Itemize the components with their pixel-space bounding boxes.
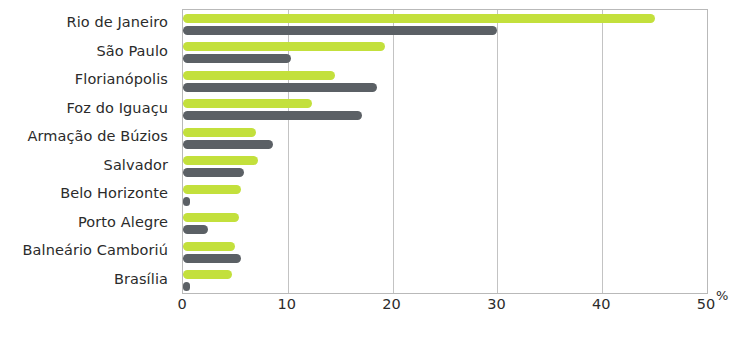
bar-series-green [183,99,312,108]
bar-series-gray [183,282,190,291]
bar-series-gray [183,111,362,120]
category-label: Belo Horizonte [0,185,168,201]
bar-series-gray [183,26,497,35]
x-axis-unit-label: % [716,288,728,303]
plot-area [182,9,708,294]
x-tick-label: 20 [382,296,400,312]
bar-series-green [183,185,241,194]
bar-series-gray [183,140,273,149]
x-axis-tick-labels: 01020304050 [182,296,708,318]
bar-series-green [183,71,335,80]
bar-series-green [183,128,256,137]
category-label: Rio de Janeiro [0,14,168,30]
category-label: Porto Alegre [0,214,168,230]
bar-series-green [183,213,239,222]
bar-series-green [183,42,385,51]
category-label: Balneário Camboriú [0,242,168,258]
category-label: Foz do Iguaçu [0,100,168,116]
x-tick-label: 30 [487,296,505,312]
bar-series-gray [183,225,208,234]
bar-series-gray [183,254,241,263]
bar-series-gray [183,54,291,63]
category-axis-labels: Rio de JaneiroSão PauloFlorianópolisFoz … [0,9,176,294]
x-tick-label: 50 [697,296,715,312]
category-label: Salvador [0,157,168,173]
bar-series-green [183,242,235,251]
bars-layer [183,10,707,293]
bar-series-gray [183,83,377,92]
bar-series-gray [183,197,190,206]
bar-series-gray [183,168,244,177]
category-label: Brasília [0,271,168,287]
bar-series-green [183,156,258,165]
bar-series-green [183,270,232,279]
category-label: São Paulo [0,43,168,59]
bar-chart: Rio de JaneiroSão PauloFlorianópolisFoz … [0,0,740,349]
x-tick-label: 0 [177,296,186,312]
bar-series-green [183,14,655,23]
x-tick-label: 40 [592,296,610,312]
category-label: Armação de Búzios [0,128,168,144]
x-tick-label: 10 [278,296,296,312]
category-label: Florianópolis [0,71,168,87]
